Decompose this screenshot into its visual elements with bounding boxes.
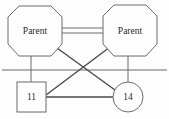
- node-parent-left-label: Parent: [23, 26, 48, 36]
- node-child-11-label: 11: [27, 92, 36, 102]
- node-parent-right-label: Parent: [118, 26, 143, 36]
- node-child-14-label: 14: [123, 92, 133, 102]
- descent-diagonal-parent-left-to-14: [57, 48, 115, 90]
- descent-diagonal-parent-right-to-11: [46, 47, 110, 95]
- genogram-diagram: Parent Parent 11 14: [0, 0, 169, 119]
- genogram-canvas: Parent Parent 11 14: [0, 0, 169, 119]
